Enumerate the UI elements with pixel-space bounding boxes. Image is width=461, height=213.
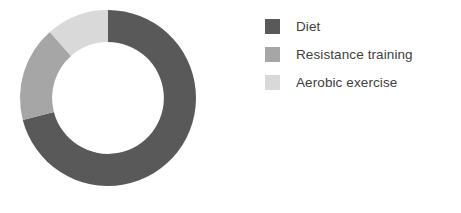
- legend-swatch-icon-aerobic-exercise: [265, 75, 280, 90]
- legend-item-diet[interactable]: Diet: [265, 12, 455, 40]
- legend-label-diet: Diet: [296, 19, 320, 34]
- legend-item-aerobic-exercise[interactable]: Aerobic exercise: [265, 68, 455, 96]
- legend-label-aerobic-exercise: Aerobic exercise: [296, 75, 397, 90]
- legend-item-resistance-training[interactable]: Resistance training: [265, 40, 455, 68]
- donut-slice-group: [20, 10, 196, 186]
- legend-label-resistance-training: Resistance training: [296, 47, 413, 62]
- donut-chart-svg: [20, 10, 196, 186]
- legend-swatch-icon-diet: [265, 19, 280, 34]
- donut-chart-plot-area: [20, 10, 196, 186]
- donut-chart-figure: Diet Resistance training Aerobic exercis…: [0, 0, 461, 213]
- chart-legend: Diet Resistance training Aerobic exercis…: [265, 12, 455, 96]
- legend-swatch-icon-resistance-training: [265, 47, 280, 62]
